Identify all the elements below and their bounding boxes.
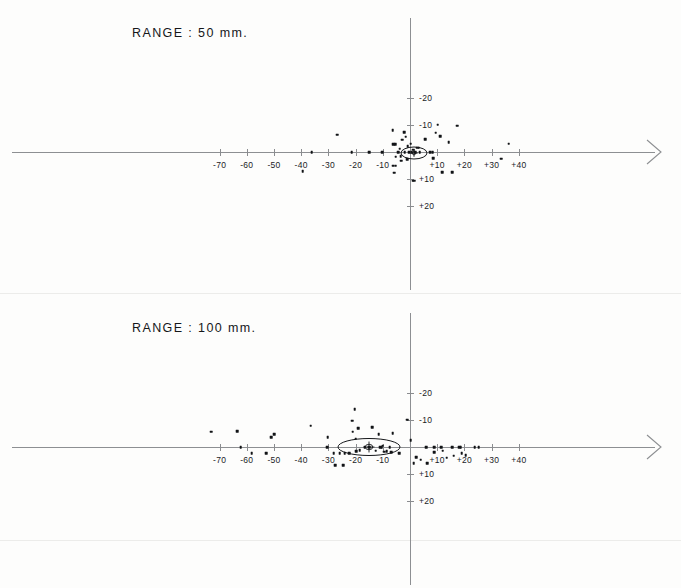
data-point — [236, 430, 239, 433]
data-point — [327, 436, 330, 439]
panel-title-range-100: RANGE : 100 mm. — [132, 321, 257, 335]
y-axis-tick — [407, 474, 414, 475]
y-axis-line — [410, 313, 411, 585]
x-axis-tick — [492, 444, 493, 451]
data-point — [273, 433, 276, 436]
y-axis-tick-label: -10 — [419, 415, 432, 425]
y-axis-tick — [407, 501, 414, 502]
data-point — [460, 452, 463, 455]
data-point — [473, 446, 476, 449]
figure-page: RANGE : 50 mm. -70-60-50-40-30-20-10+10+… — [0, 0, 681, 588]
data-point — [309, 424, 312, 427]
x-axis-arrow-icon — [646, 434, 672, 460]
x-axis-tick-label: -60 — [240, 455, 253, 465]
y-axis-tick — [407, 393, 414, 394]
x-axis-tick-label: -40 — [295, 455, 308, 465]
data-point — [415, 456, 418, 459]
plot-area-range-100: RANGE : 100 mm. -70-60-50-40-30-20-10+10… — [0, 0, 681, 294]
x-axis-tick — [437, 444, 438, 451]
x-axis-tick-label: +10 — [430, 455, 445, 465]
data-point — [326, 446, 329, 449]
data-point — [239, 446, 242, 449]
data-point — [342, 464, 345, 467]
x-axis-tick-label: -50 — [267, 455, 280, 465]
data-point — [353, 408, 356, 411]
data-point — [426, 462, 429, 465]
data-point — [420, 458, 423, 461]
y-axis-tick-label: -20 — [419, 388, 432, 398]
y-axis-tick-label: +20 — [419, 496, 434, 506]
data-point — [265, 452, 268, 455]
data-point — [452, 454, 455, 457]
confidence-ellipse — [330, 431, 408, 464]
data-point — [477, 446, 480, 449]
x-axis-tick — [519, 444, 520, 451]
x-axis-tick — [220, 444, 221, 451]
data-point — [410, 439, 413, 442]
x-axis-tick-label: +20 — [457, 455, 472, 465]
data-point — [445, 457, 448, 460]
x-axis-tick-label: +40 — [511, 455, 526, 465]
data-point — [351, 419, 354, 422]
x-axis-tick-label: -70 — [213, 455, 226, 465]
data-point — [464, 454, 467, 457]
data-point — [413, 462, 416, 465]
x-axis-tick — [301, 444, 302, 451]
data-point — [371, 426, 374, 429]
data-point — [406, 418, 409, 421]
data-point — [459, 446, 462, 449]
data-point — [425, 446, 428, 449]
data-point — [250, 452, 253, 455]
data-point — [357, 427, 360, 430]
x-axis-tick — [247, 444, 248, 451]
data-point — [210, 430, 213, 433]
data-point — [451, 446, 454, 449]
x-axis-tick-label: +30 — [484, 455, 499, 465]
x-axis-tick — [274, 444, 275, 451]
data-point — [440, 446, 443, 449]
data-point — [441, 450, 444, 453]
x-axis-tick — [464, 444, 465, 451]
data-point — [433, 451, 436, 454]
data-point — [270, 436, 273, 439]
data-point — [433, 446, 436, 449]
y-axis-tick-label: +10 — [419, 469, 434, 479]
data-point — [334, 464, 337, 467]
panel-range-100: RANGE : 100 mm. -70-60-50-40-30-20-10+10… — [0, 294, 681, 588]
